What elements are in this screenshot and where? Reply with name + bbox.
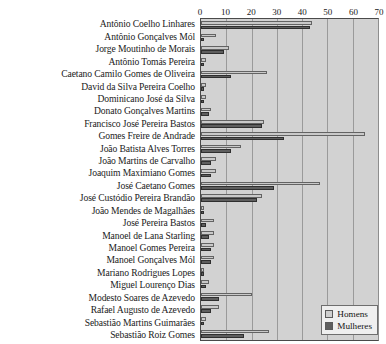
bar-mulheres [201, 223, 206, 227]
bar-homens [201, 132, 365, 136]
gridline [378, 19, 379, 340]
category-label: Gomes Freire de Andrade [0, 130, 198, 142]
bar-group [201, 105, 378, 117]
bar-mulheres [201, 309, 211, 313]
bar-mulheres [201, 75, 231, 79]
bar-homens [201, 280, 209, 284]
category-label: Antônio Tomás Pereira [0, 55, 198, 67]
bar-group [201, 291, 378, 303]
chart-legend: Homens Mulheres [321, 305, 378, 335]
category-label: Miguel Lourenço Dias [0, 279, 198, 291]
bar-group [201, 229, 378, 241]
bar-mulheres [201, 322, 204, 326]
bar-group [201, 31, 378, 43]
bar-homens [201, 108, 211, 112]
plot-area [200, 18, 379, 341]
bar-homens [201, 317, 206, 321]
bar-homens [201, 120, 264, 124]
bar-mulheres [201, 149, 231, 153]
bar-homens [201, 169, 216, 173]
bar-group [201, 217, 378, 229]
bar-group [201, 68, 378, 80]
category-label: Sebastião Martins Guimarães [0, 316, 198, 328]
bar-homens [201, 330, 269, 334]
bar-mulheres [201, 235, 209, 239]
bar-group [201, 93, 378, 105]
x-tick-label: 0 [198, 7, 203, 17]
bars-layer [201, 19, 378, 340]
bar-mulheres [201, 198, 257, 202]
bar-mulheres [201, 137, 284, 141]
category-label: Antônio Coelho Linhares [0, 18, 198, 30]
bar-group [201, 19, 378, 31]
bar-mulheres [201, 100, 204, 104]
bar-homens [201, 71, 267, 75]
bar-mulheres [201, 161, 211, 165]
x-axis-top: 010203040506070 [200, 0, 379, 18]
category-label: Dominicano José da Silva [0, 93, 198, 105]
x-tick-label: 70 [375, 7, 384, 17]
bar-homens [201, 46, 229, 50]
bar-homens [201, 182, 320, 186]
bar-homens [201, 95, 206, 99]
bar-group [201, 179, 378, 191]
bar-group [201, 81, 378, 93]
bar-homens [201, 157, 216, 161]
category-label: Antônio Gonçalves Mól [0, 30, 198, 42]
bar-mulheres [201, 174, 211, 178]
category-label: Caetano Camilo Gomes de Oliveira [0, 68, 198, 80]
category-label: Joaquim Maximiano Gomes [0, 167, 198, 179]
bar-mulheres [201, 112, 209, 116]
bar-group [201, 254, 378, 266]
category-label: David da Silva Pereira Coelho [0, 80, 198, 92]
bar-mulheres [201, 124, 262, 128]
category-label: Manoel de Lana Starling [0, 229, 198, 241]
x-tick-label: 60 [349, 7, 358, 17]
x-tick-label: 20 [247, 7, 256, 17]
bar-group [201, 155, 378, 167]
legend-swatch-mulheres-icon [325, 322, 333, 330]
bar-mulheres [201, 50, 224, 54]
bar-mulheres [201, 63, 204, 67]
bar-homens [201, 243, 214, 247]
bar-group [201, 56, 378, 68]
bar-homens [201, 231, 214, 235]
bar-chart: Antônio Coelho LinharesAntônio Gonçalves… [0, 0, 386, 344]
category-axis-labels: Antônio Coelho LinharesAntônio Gonçalves… [0, 18, 198, 341]
category-label: Sebastião Roiz Gomes [0, 329, 198, 341]
category-label: Manoel Gonçalves Mól [0, 254, 198, 266]
bar-mulheres [201, 26, 310, 30]
bar-homens [201, 83, 206, 87]
bar-group [201, 192, 378, 204]
bar-group [201, 130, 378, 142]
bar-group [201, 167, 378, 179]
x-tick-label: 10 [221, 7, 230, 17]
bar-group [201, 278, 378, 290]
bar-group [201, 241, 378, 253]
legend-item-mulheres: Mulheres [325, 321, 372, 331]
x-tick-label: 30 [272, 7, 281, 17]
bar-mulheres [201, 297, 219, 301]
category-label: Jorge Moutinho de Morais [0, 43, 198, 55]
bar-group [201, 142, 378, 154]
bar-group [201, 118, 378, 130]
bar-mulheres [201, 248, 211, 252]
bar-homens [201, 194, 262, 198]
bar-mulheres [201, 272, 204, 276]
legend-label-mulheres: Mulheres [337, 321, 372, 331]
category-label: José Custódio Pereira Brandão [0, 192, 198, 204]
category-label: João Martins de Carvalho [0, 155, 198, 167]
bar-group [201, 204, 378, 216]
bar-homens [201, 58, 206, 62]
bar-mulheres [201, 334, 244, 338]
bar-mulheres [201, 87, 204, 91]
bar-mulheres [201, 285, 206, 289]
bar-mulheres [201, 186, 274, 190]
bar-group [201, 44, 378, 56]
bar-homens [201, 219, 214, 223]
bar-homens [201, 256, 214, 260]
bar-homens [201, 305, 219, 309]
legend-label-homens: Homens [337, 309, 368, 319]
x-tick-label: 50 [323, 7, 332, 17]
category-label: José Pereira Bastos [0, 217, 198, 229]
